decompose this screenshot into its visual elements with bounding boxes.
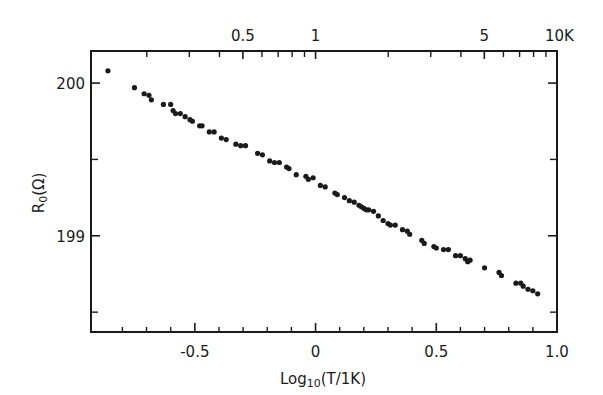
data-point: [458, 253, 463, 258]
data-point: [482, 265, 487, 270]
data-point: [212, 129, 217, 134]
data-point: [446, 247, 451, 252]
data-point: [525, 287, 530, 292]
x-tick-label: -0.5: [180, 343, 209, 361]
plot-frame: [91, 51, 557, 332]
data-point: [178, 111, 183, 116]
data-points: [105, 68, 540, 296]
data-point: [243, 143, 248, 148]
data-point: [513, 281, 518, 286]
data-point: [318, 183, 323, 188]
data-point: [142, 91, 147, 96]
data-point: [352, 200, 357, 205]
data-point: [233, 142, 238, 147]
data-point: [286, 166, 291, 171]
data-point: [190, 119, 195, 124]
data-point: [366, 207, 371, 212]
data-point: [168, 102, 173, 107]
top-tick-label: 1: [311, 27, 321, 45]
axis-ticks: [91, 51, 557, 332]
data-point: [342, 195, 347, 200]
data-point: [347, 198, 352, 203]
data-point: [294, 172, 299, 177]
data-point: [535, 291, 540, 296]
data-point: [132, 85, 137, 90]
data-point: [376, 213, 381, 218]
data-point: [323, 184, 328, 189]
data-point: [441, 247, 446, 252]
data-point: [146, 93, 151, 98]
data-point: [255, 151, 260, 156]
tick-labels: -0.500.51.02001990.51510K: [56, 27, 575, 361]
x-axis-label: Log10(T/1K): [280, 370, 366, 390]
top-tick-label: 10K: [545, 27, 575, 45]
data-point: [260, 152, 265, 157]
data-point: [311, 175, 316, 180]
data-point: [400, 227, 405, 232]
data-point: [219, 135, 224, 140]
data-point: [381, 218, 386, 223]
x-tick-label: 0.5: [424, 343, 448, 361]
data-point: [238, 143, 243, 148]
x-tick-label: 0: [311, 343, 321, 361]
data-point: [183, 114, 188, 119]
data-point: [434, 245, 439, 250]
data-point: [272, 160, 277, 165]
data-point: [161, 102, 166, 107]
data-point: [422, 241, 427, 246]
y-tick-label: 200: [56, 75, 85, 93]
data-point: [371, 209, 376, 214]
data-point: [467, 258, 472, 263]
top-tick-label: 0.5: [231, 27, 255, 45]
data-point: [267, 158, 272, 163]
data-point: [530, 288, 535, 293]
scatter-plot: -0.500.51.02001990.51510K Log10(T/1K) R0…: [0, 0, 603, 395]
y-axis-label: R0(Ω): [30, 173, 50, 214]
data-point: [149, 97, 154, 102]
data-point: [199, 123, 204, 128]
data-point: [499, 273, 504, 278]
data-point: [388, 222, 393, 227]
data-point: [393, 222, 398, 227]
data-point: [207, 129, 212, 134]
data-point: [173, 111, 178, 116]
y-tick-label: 199: [56, 228, 85, 246]
data-point: [306, 177, 311, 182]
x-tick-label: 1.0: [545, 343, 569, 361]
data-point: [335, 192, 340, 197]
data-point: [277, 160, 282, 165]
data-point: [453, 253, 458, 258]
data-point: [521, 284, 526, 289]
top-tick-label: 5: [480, 27, 490, 45]
data-point: [224, 137, 229, 142]
data-point: [407, 232, 412, 237]
data-point: [105, 68, 110, 73]
